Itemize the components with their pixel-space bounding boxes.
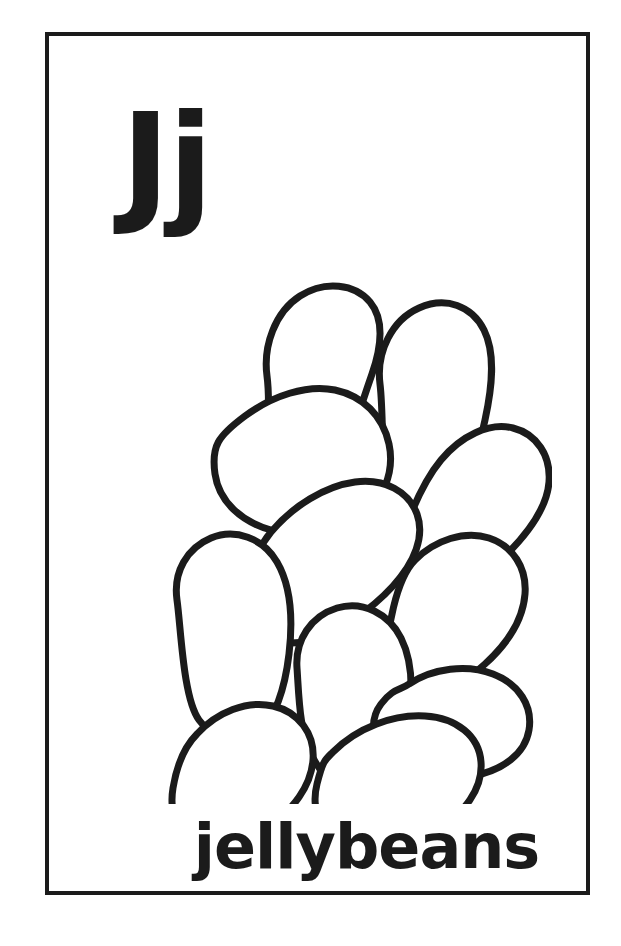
flashcard: Jj xyxy=(0,0,621,946)
card-border-frame: Jj xyxy=(45,32,590,895)
jellybeans-svg xyxy=(167,264,552,804)
jellybeans-illustration xyxy=(167,264,552,804)
letter-pair: Jj xyxy=(121,96,211,228)
bean-bottom-left xyxy=(172,704,313,804)
caption-word: jellybeans xyxy=(98,814,621,879)
